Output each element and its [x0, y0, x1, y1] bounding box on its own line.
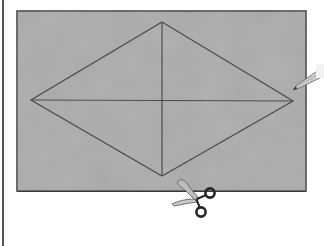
paper-diagram: [0, 0, 324, 246]
figure: [0, 0, 324, 246]
